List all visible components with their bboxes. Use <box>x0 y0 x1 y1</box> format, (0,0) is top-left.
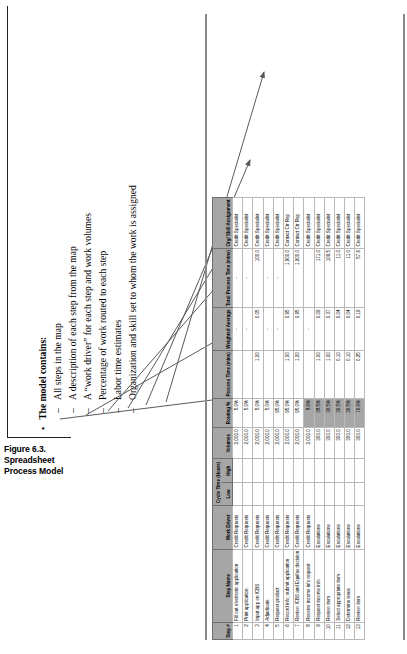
cell-name[interactable]: Request product <box>273 549 283 622</box>
cell-low[interactable] <box>334 482 344 505</box>
cell-vol[interactable]: 2,000.0 <box>243 428 253 459</box>
cell-ptime[interactable] <box>263 350 273 398</box>
cell-total[interactable]: - <box>273 248 283 308</box>
cell-vol[interactable]: 2,000.0 <box>294 428 304 459</box>
cell-name[interactable]: Fill out electronic application <box>233 549 243 622</box>
cell-routing[interactable]: 5.0% <box>243 398 253 427</box>
cell-name[interactable]: Determine issue <box>345 549 355 622</box>
cell-step[interactable]: 10 <box>324 622 334 639</box>
cell-total[interactable]: 11.0 <box>345 248 355 308</box>
cell-high[interactable] <box>263 459 273 482</box>
table-row[interactable]: 1Fill out electronic applicationCredit R… <box>233 198 243 640</box>
cell-driver[interactable]: Escalations <box>324 506 334 549</box>
cell-org[interactable]: Credit Specialist <box>263 198 273 248</box>
cell-org[interactable]: Credit Specialist <box>304 198 314 248</box>
cell-step[interactable]: 12 <box>345 622 355 639</box>
cell-driver[interactable]: Credit Requests <box>273 506 283 549</box>
col-weighted-average[interactable]: Weighted Average <box>213 308 233 351</box>
cell-name[interactable]: Review item <box>355 549 365 622</box>
cell-low[interactable] <box>283 482 293 505</box>
cell-wavg[interactable]: - <box>304 308 314 351</box>
table-row[interactable]: 4AdjudicateCredit Requests2,000.05.0%--C… <box>263 198 273 640</box>
cell-vol[interactable]: 2,000.0 <box>273 428 283 459</box>
col-step-number[interactable]: Step # <box>213 622 233 639</box>
cell-name[interactable]: Print application <box>243 549 253 622</box>
cell-vol[interactable]: 300.0 <box>355 428 365 459</box>
cell-total[interactable]: - <box>263 248 273 308</box>
table-row[interactable]: 8Receive income info requestCredit Reque… <box>304 198 314 640</box>
cell-ptime[interactable]: 1.00 <box>253 350 263 398</box>
cell-org[interactable]: Credit Specialist <box>355 198 365 248</box>
cell-vol[interactable]: 2,000.0 <box>263 428 273 459</box>
cell-vol[interactable]: 300.0 <box>334 428 344 459</box>
cell-vol[interactable]: 2,000.0 <box>233 428 243 459</box>
cell-routing[interactable]: 95.0% <box>283 398 293 427</box>
cell-driver[interactable]: Credit Requests <box>263 506 273 549</box>
cell-wavg[interactable]: - <box>243 308 253 351</box>
cell-total[interactable] <box>304 248 314 308</box>
cell-low[interactable] <box>314 482 324 505</box>
cell-low[interactable] <box>355 482 365 505</box>
cell-driver[interactable]: Escalations <box>355 506 365 549</box>
col-process-time[interactable]: Process Time (mins) <box>213 350 233 398</box>
cell-routing[interactable]: 36.5% <box>345 398 355 427</box>
cell-name[interactable]: Input app on ICBS <box>253 549 263 622</box>
table-row[interactable]: 12Determine issueEscalations300.036.5%0.… <box>345 198 355 640</box>
table-row[interactable]: 5Request productCredit Requests2,000.095… <box>273 198 283 640</box>
col-total-process-time[interactable]: Total Process Time (mins) <box>213 248 233 308</box>
table-row[interactable]: 6Record info, submit applicationCredit R… <box>283 198 293 640</box>
cell-driver[interactable]: Credit Requests <box>243 506 253 549</box>
col-cycle-low[interactable]: Low <box>222 482 233 505</box>
cell-high[interactable] <box>314 459 324 482</box>
cell-low[interactable] <box>233 482 243 505</box>
cell-step[interactable]: 2 <box>243 622 253 639</box>
cell-vol[interactable]: 300.0 <box>314 428 324 459</box>
cell-ptime[interactable] <box>273 350 283 398</box>
cell-low[interactable] <box>263 482 273 505</box>
cell-vol[interactable]: 2,000.0 <box>283 428 293 459</box>
col-group-cycle-time[interactable]: Cycle Time (Hours) <box>213 459 223 506</box>
cell-low[interactable] <box>243 482 253 505</box>
cell-org[interactable]: Credit Specialist <box>273 198 283 248</box>
cell-routing[interactable]: 76.6% <box>355 398 365 427</box>
cell-driver[interactable]: Credit Requests <box>283 506 293 549</box>
cell-vol[interactable]: 300.0 <box>324 428 334 459</box>
cell-wavg[interactable]: - <box>233 308 243 351</box>
cell-ptime[interactable]: 0.10 <box>334 350 344 398</box>
cell-high[interactable] <box>324 459 334 482</box>
cell-routing[interactable]: 5.0% <box>263 398 273 427</box>
cell-ptime[interactable]: 1.00 <box>294 350 304 398</box>
table-body[interactable]: 1Fill out electronic applicationCredit R… <box>233 198 365 640</box>
cell-step[interactable]: 3 <box>253 622 263 639</box>
table-row[interactable]: 2Print applicationCredit Requests2,000.0… <box>243 198 253 640</box>
cell-wavg[interactable]: - <box>263 308 273 351</box>
cell-step[interactable]: 9 <box>314 622 324 639</box>
cell-ptime[interactable] <box>233 350 243 398</box>
table-row[interactable]: 10Review itemEscalations300.036.5%1.000.… <box>324 198 334 640</box>
cell-total[interactable]: 1,900.0 <box>283 248 293 308</box>
cell-routing[interactable]: 5.0% <box>233 398 243 427</box>
cell-total[interactable]: - <box>243 248 253 308</box>
cell-ptime[interactable]: 0.25 <box>355 350 365 398</box>
cell-vol[interactable]: 2,000.0 <box>253 428 263 459</box>
cell-routing[interactable]: 38.5% <box>314 398 324 427</box>
table-row[interactable]: 7Review ICBS and Equifax decisionCredit … <box>294 198 304 640</box>
col-cycle-high[interactable]: High <box>222 459 233 482</box>
cell-wavg[interactable]: 0.09 <box>314 308 324 351</box>
table-row[interactable]: 9Request income infoEscalations300.038.5… <box>314 198 324 640</box>
cell-routing[interactable]: 36.5% <box>324 398 334 427</box>
cell-org[interactable]: Credit Specialist <box>233 198 243 248</box>
cell-org[interactable]: Contact Ctr Rep <box>283 198 293 248</box>
cell-ptime[interactable]: 1.00 <box>314 350 324 398</box>
table-row[interactable]: 3Input app on ICBSCredit Requests2,000.0… <box>253 198 263 640</box>
cell-vol[interactable]: 2,000.0 <box>304 428 314 459</box>
cell-high[interactable] <box>304 459 314 482</box>
cell-low[interactable] <box>345 482 355 505</box>
cell-ptime[interactable] <box>243 350 253 398</box>
cell-ptime[interactable]: 0.10 <box>345 350 355 398</box>
col-routing-pct[interactable]: Routing % <box>213 398 233 427</box>
col-volumes[interactable]: Volumes <box>213 428 233 459</box>
cell-low[interactable] <box>304 482 314 505</box>
cell-wavg[interactable]: 0.19 <box>355 308 365 351</box>
cell-high[interactable] <box>294 459 304 482</box>
